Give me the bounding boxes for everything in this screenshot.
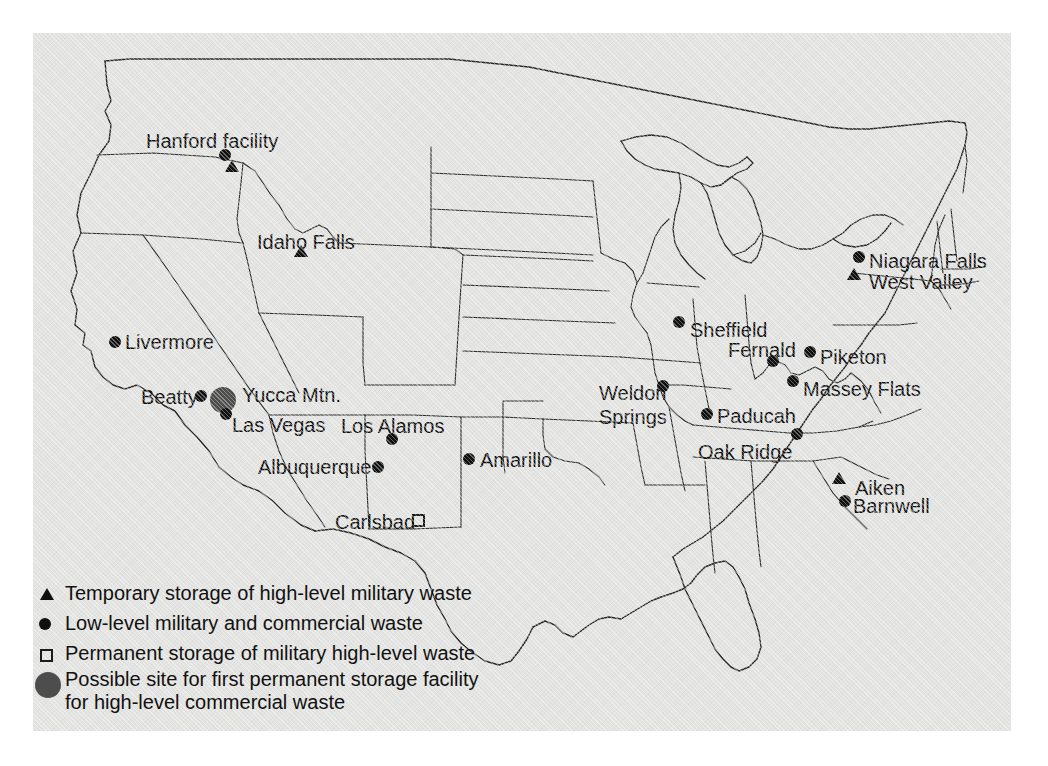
site-label-las-vegas: Las Vegas (232, 414, 325, 436)
site-label-piketon: Piketon (820, 346, 887, 368)
legend-text-triangle: Temporary storage of high-level military… (65, 582, 472, 605)
site-label-barnwell: Barnwell (853, 495, 930, 517)
site-label-albuquerque: Albuquerque (258, 456, 371, 478)
legend-symbol-bigdot (35, 668, 65, 694)
site-label-niagara-falls: Niagara Falls (869, 250, 987, 272)
site-label-hanford: Hanford facility (146, 130, 278, 152)
legend-bigdot-icon (35, 672, 61, 698)
legend-row-square: Permanent storage of military high-level… (35, 638, 515, 668)
site-label-idaho-falls: Idaho Falls (257, 231, 355, 253)
legend-text-dot: Low-level military and commercial waste (65, 612, 423, 635)
legend-dot-icon (39, 618, 51, 630)
site-label-paducah: Paducah (717, 405, 796, 427)
legend-text-bigdot: Possible site for first permanent storag… (65, 668, 505, 714)
site-label-weldon-springs: Weldon Springs (599, 381, 671, 429)
site-label-sheffield: Sheffield (690, 319, 767, 341)
legend-triangle-icon (40, 588, 54, 600)
legend-square-icon (40, 649, 53, 662)
legend-row-dot: Low-level military and commercial waste (35, 608, 515, 638)
site-label-yucca-mtn: Yucca Mtn. (242, 384, 341, 406)
legend-row-bigdot: Possible site for first permanent storag… (35, 668, 515, 716)
site-label-amarillo: Amarillo (480, 449, 552, 471)
legend-symbol-square (35, 640, 65, 666)
site-label-fernald: Fernald (728, 339, 796, 361)
site-label-livermore: Livermore (125, 331, 214, 353)
map-legend: Temporary storage of high-level military… (35, 578, 515, 716)
site-label-west-valley: West Valley (869, 271, 973, 293)
legend-text-square: Permanent storage of military high-level… (65, 642, 475, 665)
map-page: Hanford facilityIdaho FallsLivermoreBeat… (0, 0, 1048, 766)
site-label-beatty: Beatty (141, 386, 198, 408)
legend-row-triangle: Temporary storage of high-level military… (35, 578, 515, 608)
site-label-carlsbad: Carlsbad (335, 511, 415, 533)
site-label-massey-flats: Massey Flats (803, 378, 921, 400)
legend-symbol-triangle (35, 580, 65, 606)
site-label-los-alamos: Los Alamos (341, 415, 444, 437)
legend-symbol-dot (35, 610, 65, 636)
site-label-oak-ridge: Oak Ridge (698, 441, 793, 463)
